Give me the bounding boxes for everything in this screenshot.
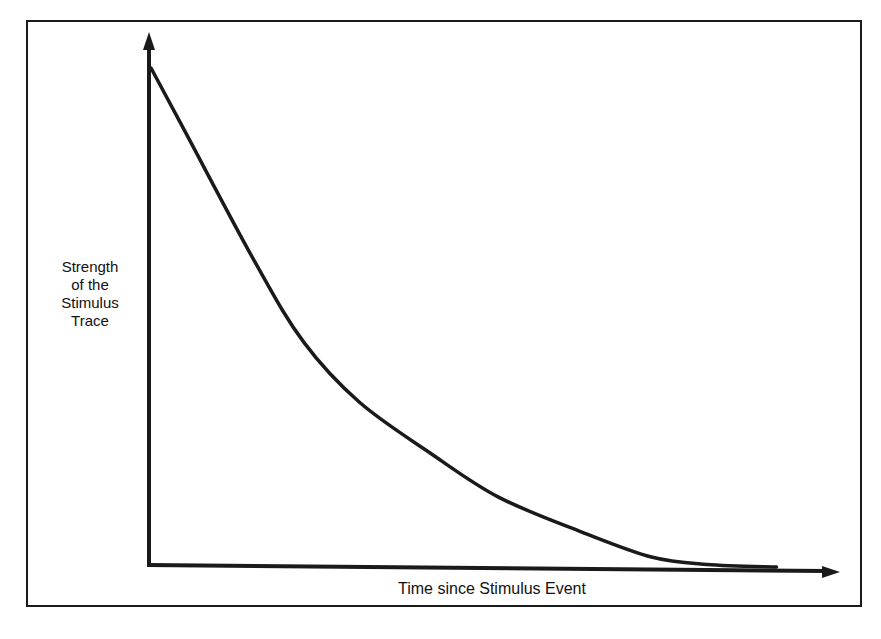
x-axis-label: Time since Stimulus Event: [146, 580, 838, 598]
y-label-line: Stimulus: [40, 294, 140, 312]
y-axis-label: Strength of the Stimulus Trace: [40, 258, 140, 330]
x-axis-arrow-icon: [822, 566, 840, 578]
y-label-line: Strength: [40, 258, 140, 276]
y-axis-arrow-icon: [143, 32, 155, 50]
decay-curve: [151, 68, 777, 567]
y-label-line: Trace: [40, 312, 140, 330]
y-label-line: of the: [40, 276, 140, 294]
